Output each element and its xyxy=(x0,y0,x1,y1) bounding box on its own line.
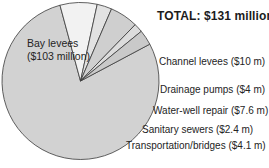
slice-label-bay-levees-name: Bay levees xyxy=(27,37,78,49)
callout-label-water-well-repair: Water-well repair ($7.6 m) xyxy=(153,105,268,117)
pie-chart-figure: TOTAL: $131 million Bay levees ($103 mil… xyxy=(0,0,269,168)
callout-label-drainage-pumps: Drainage pumps ($4 m) xyxy=(160,84,265,96)
callout-label-transportation-bridges: Transportation/bridges ($4.1 m) xyxy=(126,140,266,152)
pie-slices xyxy=(2,2,159,159)
callout-label-sanitary-sewers: Sanitary sewers ($2.4 m) xyxy=(142,124,253,136)
callout-label-channel-levees: Channel levees ($10 m) xyxy=(159,56,265,68)
slice-label-bay-levees: Bay levees ($103 million) xyxy=(27,37,90,63)
slice-label-bay-levees-value: ($103 million) xyxy=(27,50,90,63)
chart-title: TOTAL: $131 million xyxy=(157,9,269,23)
